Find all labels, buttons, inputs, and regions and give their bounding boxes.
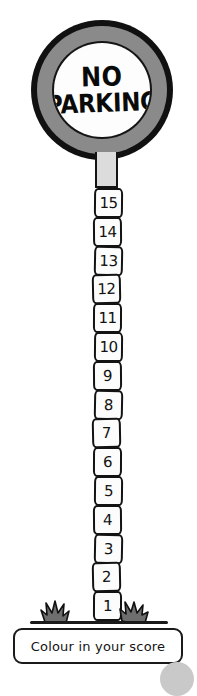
decorative-corner-blob [160,662,194,696]
score-segment-7[interactable]: 7 [92,418,122,449]
score-segment-4[interactable]: 4 [92,505,121,535]
score-segment-6[interactable]: 6 [93,447,122,477]
score-segment-14[interactable]: 14 [92,217,121,247]
score-segment-9[interactable]: 9 [92,361,121,391]
score-segment-5[interactable]: 5 [93,476,122,506]
score-segment-12[interactable]: 12 [92,274,122,305]
score-segment-2[interactable]: 2 [92,562,122,593]
score-segment-15[interactable]: 15 [93,188,122,218]
sign-face: NO PARKING [54,43,150,137]
score-pole: 151413121110987654321 [92,152,124,622]
caption-label: Colour in your score [31,639,166,654]
score-segment-3[interactable]: 3 [94,533,124,564]
score-segment-10[interactable]: 10 [93,332,122,362]
pole-connector [95,152,118,188]
caption-box[interactable]: Colour in your score [13,628,183,664]
score-segment-11[interactable]: 11 [93,303,122,333]
score-segment-13[interactable]: 13 [94,245,124,276]
ground-line [30,621,168,624]
score-segment-list: 151413121110987654321 [92,188,124,620]
no-parking-sign-icon: NO PARKING [31,20,173,160]
score-segment-8[interactable]: 8 [94,389,124,420]
sign-title-line-2: PARKING [54,88,150,118]
